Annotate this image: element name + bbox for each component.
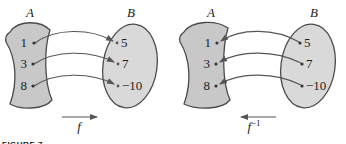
- b-point-7-inverse: 7: [306, 56, 313, 71]
- b-point-5-inverse: 5: [304, 35, 311, 50]
- left-diagram: A B 1 3 8 5 7 −10 f: [6, 5, 163, 134]
- set-b-label-inverse: B: [310, 5, 318, 20]
- set-a-blob: [6, 23, 52, 108]
- set-b-label: B: [127, 5, 135, 20]
- function-label-f-inverse: f−1: [247, 118, 260, 134]
- set-b-ellipse: [97, 21, 162, 112]
- inverse-arrow-5-to-1: [221, 31, 299, 42]
- right-diagram: A B 1 3 8 5 7 −10 f−1: [180, 5, 341, 134]
- b-point-5: 5: [121, 35, 128, 50]
- a-point-1-inverse: 1: [205, 35, 212, 50]
- a-point-8-inverse: 8: [204, 78, 211, 93]
- set-a-label: A: [25, 5, 34, 20]
- function-label-f: f: [77, 119, 83, 134]
- function-inverse-diagram: A B 1 3 8 5 7 −10 f A B 1 3 8: [0, 0, 346, 144]
- b-point-neg10-inverse: −10: [306, 78, 326, 93]
- b-point-7: 7: [122, 56, 129, 71]
- a-point-8: 8: [21, 78, 28, 93]
- a-point-3-inverse: 3: [204, 56, 211, 71]
- a-point-1: 1: [21, 35, 28, 50]
- set-a-label-inverse: A: [206, 5, 215, 20]
- figure-caption: FIGURE 7: [2, 140, 43, 144]
- a-point-3: 3: [21, 56, 28, 71]
- b-point-neg10: −10: [122, 78, 142, 93]
